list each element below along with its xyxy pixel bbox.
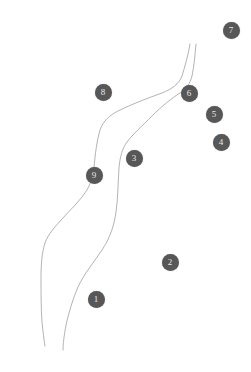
map-marker-4[interactable]: 4: [213, 134, 230, 151]
map-marker-9[interactable]: 9: [86, 167, 103, 184]
map-marker-5[interactable]: 5: [206, 106, 223, 123]
map-marker-7[interactable]: 7: [223, 22, 240, 39]
route-layer: [0, 0, 251, 372]
routes-group: [41, 44, 196, 350]
route-path-west-route: [41, 44, 190, 346]
map-marker-6[interactable]: 6: [181, 85, 198, 102]
map-marker-2[interactable]: 2: [162, 254, 179, 271]
route-path-east-route: [63, 44, 196, 350]
map-canvas[interactable]: 768543921: [0, 0, 251, 372]
map-marker-1[interactable]: 1: [88, 291, 105, 308]
map-marker-3[interactable]: 3: [126, 150, 143, 167]
map-marker-8[interactable]: 8: [95, 84, 112, 101]
